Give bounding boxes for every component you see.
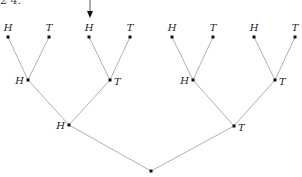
heads-label: H [84,22,94,33]
tails-label: T [279,76,287,87]
tails-label: T [210,22,218,33]
tree-edge [172,37,193,80]
heads-label: H [55,120,65,131]
tree-node [88,36,91,39]
tree-edge [8,37,28,80]
tails-label: T [127,22,135,33]
tails-label: T [46,22,54,33]
heads-label: H [179,75,189,86]
tree-node [129,36,132,39]
tree-node [109,79,112,82]
down-arrow-icon [87,0,93,18]
tails-label: T [114,76,122,87]
tree-edge [110,37,130,80]
heads-label: H [249,22,259,33]
tree-edge [193,80,234,126]
tree-edge [151,126,234,171]
tree-edge [69,80,110,125]
tree-edge [234,80,275,126]
tree-node [171,36,174,39]
tree-node [68,124,71,127]
tree-node [212,36,215,39]
heads-label: H [167,22,177,33]
tree-node [253,36,256,39]
tree-edge [193,37,213,80]
tree-node [150,170,153,173]
heads-label: H [3,22,13,33]
tails-label: T [292,22,300,33]
tree-edge [89,37,110,80]
tree-edge [28,37,49,80]
tree-edge [69,125,151,171]
tree-node [192,79,195,82]
tree-node [294,36,297,39]
tree-edge [28,80,69,125]
tree-edges [8,37,295,171]
tails-label: T [238,122,246,133]
tree-node [48,36,51,39]
tree-edge [254,37,275,80]
tree-node [7,36,10,39]
tree-node [233,125,236,128]
probability-tree-diagram: HTHTHTHTHTHTHT [0,0,302,177]
heads-label: H [14,75,24,86]
tree-edge [275,37,295,80]
tree-node [27,79,30,82]
tree-node [274,79,277,82]
